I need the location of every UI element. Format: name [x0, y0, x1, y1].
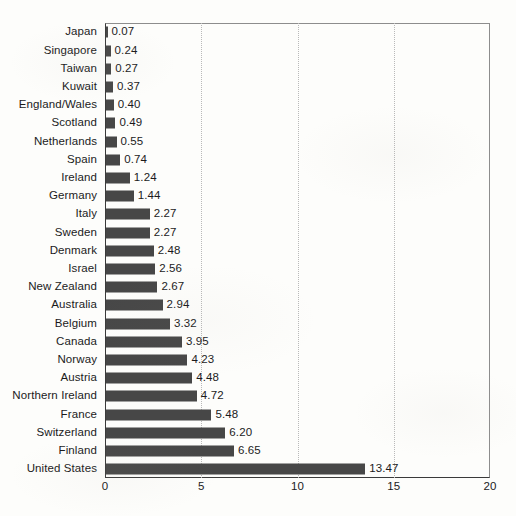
category-label: Denmark [50, 245, 97, 257]
bar-row: Scotland0.49 [0, 114, 516, 133]
category-label: Singapore [44, 45, 97, 57]
bar-value-label: 0.27 [115, 63, 138, 75]
bar-row: Canada3.95 [0, 332, 516, 351]
category-label: Netherlands [34, 136, 97, 148]
bar [106, 409, 211, 420]
bar [106, 318, 170, 329]
bar-value-label: 5.48 [215, 409, 238, 421]
bar-value-label: 2.67 [161, 282, 184, 294]
bar-value-label: 4.72 [201, 391, 224, 403]
category-label: Japan [65, 27, 97, 39]
bar-value-label: 1.44 [138, 191, 161, 203]
bar-value-label: 0.74 [124, 154, 147, 166]
category-label: New Zealand [28, 282, 97, 294]
bar [106, 27, 108, 38]
bar [106, 82, 113, 93]
bar [106, 118, 115, 129]
bar-row: Sweden2.27 [0, 223, 516, 242]
category-label: Taiwan [61, 63, 97, 75]
bar-value-label: 2.48 [158, 245, 181, 257]
bar [106, 173, 130, 184]
bar [106, 446, 234, 457]
bar-row: Singapore0.24 [0, 41, 516, 60]
category-label: Kuwait [62, 81, 97, 93]
bar-value-label: 0.07 [112, 27, 135, 39]
category-label: Australia [51, 300, 97, 312]
bar [106, 391, 197, 402]
category-label: Germany [49, 191, 97, 203]
bar-value-label: 6.20 [229, 427, 252, 439]
bar-row: Belgium3.32 [0, 314, 516, 333]
bar [106, 264, 155, 275]
bar-row: Japan0.07 [0, 23, 516, 42]
category-label: Norway [57, 354, 97, 366]
bar-value-label: 4.23 [191, 354, 214, 366]
bar [106, 100, 114, 111]
bar-row: Australia2.94 [0, 296, 516, 315]
bar-row: Denmark2.48 [0, 241, 516, 260]
bar [106, 300, 163, 311]
bar-value-label: 2.94 [167, 300, 190, 312]
bar [106, 45, 111, 56]
bar-value-label: 2.27 [154, 227, 177, 239]
bar-chart: Japan0.07Singapore0.24Taiwan0.27Kuwait0.… [0, 0, 516, 516]
category-label: Austria [61, 373, 98, 385]
bar [106, 245, 154, 256]
bar-row: United States13.47 [0, 460, 516, 479]
bar-value-label: 6.65 [238, 445, 261, 457]
bar [106, 373, 192, 384]
category-label: United States [27, 464, 97, 476]
bar-value-label: 0.55 [121, 136, 144, 148]
bar [106, 427, 225, 438]
category-label: Belgium [55, 318, 97, 330]
bar [106, 464, 365, 475]
bar-value-label: 0.40 [118, 100, 141, 112]
x-tick-label: 5 [198, 481, 205, 493]
category-label: France [61, 409, 97, 421]
category-label: Italy [75, 209, 97, 221]
bar [106, 209, 150, 220]
bar-row: France5.48 [0, 405, 516, 424]
bar-row: Germany1.44 [0, 187, 516, 206]
bar [106, 336, 182, 347]
bar-value-label: 3.32 [174, 318, 197, 330]
bar-row: Finland6.65 [0, 442, 516, 461]
category-label: Canada [56, 336, 97, 348]
x-tick-label: 15 [387, 481, 400, 493]
category-label: Switzerland [36, 427, 97, 439]
category-label: England/Wales [19, 100, 97, 112]
bar-row: Netherlands0.55 [0, 132, 516, 151]
category-label: Finland [59, 445, 97, 457]
bar-value-label: 2.27 [154, 209, 177, 221]
bar [106, 191, 134, 202]
bar-row: England/Wales0.40 [0, 96, 516, 115]
category-label: Northern Ireland [12, 391, 97, 403]
bar [106, 282, 157, 293]
bar-row: Switzerland6.20 [0, 423, 516, 442]
category-label: Spain [67, 154, 97, 166]
x-tick-label: 10 [291, 481, 304, 493]
bar-value-label: 4.48 [196, 373, 219, 385]
bar-row: Italy2.27 [0, 205, 516, 224]
bar-value-label: 3.95 [186, 336, 209, 348]
bar [106, 355, 187, 366]
category-label: Israel [68, 263, 97, 275]
bar [106, 154, 120, 165]
bar-value-label: 0.37 [117, 81, 140, 93]
bar-row: Kuwait0.37 [0, 78, 516, 97]
bar-row: Taiwan0.27 [0, 59, 516, 78]
bar-row: Austria4.48 [0, 369, 516, 388]
bar [106, 63, 111, 74]
category-label: Scotland [51, 118, 97, 130]
bar-value-label: 0.49 [119, 118, 142, 130]
bar-row: Ireland1.24 [0, 169, 516, 188]
bar-row: Norway4.23 [0, 351, 516, 370]
bar-row: New Zealand2.67 [0, 278, 516, 297]
x-tick-label: 0 [102, 481, 109, 493]
bar-row: Spain0.74 [0, 150, 516, 169]
bar-value-label: 13.47 [369, 464, 398, 476]
bar-value-label: 0.24 [115, 45, 138, 57]
bar [106, 136, 117, 147]
bar-value-label: 2.56 [159, 263, 182, 275]
bar-row: Northern Ireland4.72 [0, 387, 516, 406]
